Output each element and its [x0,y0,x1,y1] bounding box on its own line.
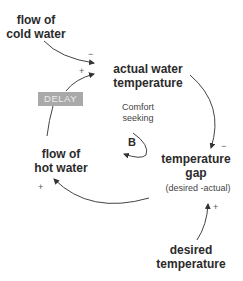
polarity-desired-to-gap: + [213,203,218,212]
polarity-actual-to-gap: − [221,142,226,151]
arrow-gap-to-hot [54,179,149,203]
loop-type-label: B [128,136,136,148]
node-temperature-gap: temperature gap [158,152,234,180]
node-label-line: desired [152,243,230,257]
arrows-layer [0,0,243,281]
arrow-actual-to-gap [190,75,215,148]
delay-box: DELAY [38,92,83,106]
node-label-line: actual water [103,62,193,76]
node-label-line: temperature [158,152,234,166]
temperature-gap-note: (desired -actual) [160,183,236,194]
node-desired-temperature: desired temperature [152,243,230,271]
node-label-line: flow of [6,13,66,27]
node-flow-of-cold-water: flow of cold water [6,13,66,41]
node-actual-water-temperature: actual water temperature [103,62,193,90]
polarity-gap-to-hot: + [38,183,43,192]
arrow-desired-to-gap [197,204,208,240]
arrow-hot-to-delay [47,106,53,136]
loop-label-line: seeking [108,113,168,124]
loop-label: Comfort seeking [108,102,168,124]
gap-note-text: (desired -actual) [165,183,230,193]
loop-label-line: Comfort [108,102,168,113]
polarity-hot-to-actual: + [79,67,84,76]
node-label-line: cold water [6,27,66,41]
polarity-cold-to-actual: − [88,50,93,59]
node-label-line: temperature [152,257,230,271]
arrow-delay-to-actual [66,74,94,91]
node-label-line: gap [158,166,234,180]
node-label-line: hot water [28,161,94,175]
delay-label: DELAY [44,93,77,104]
arrow-cold-to-actual [44,41,94,63]
loop-type-balancing: B [128,136,136,148]
node-label-line: temperature [103,76,193,90]
node-flow-of-hot-water: flow of hot water [28,147,94,175]
node-label-line: flow of [28,147,94,161]
